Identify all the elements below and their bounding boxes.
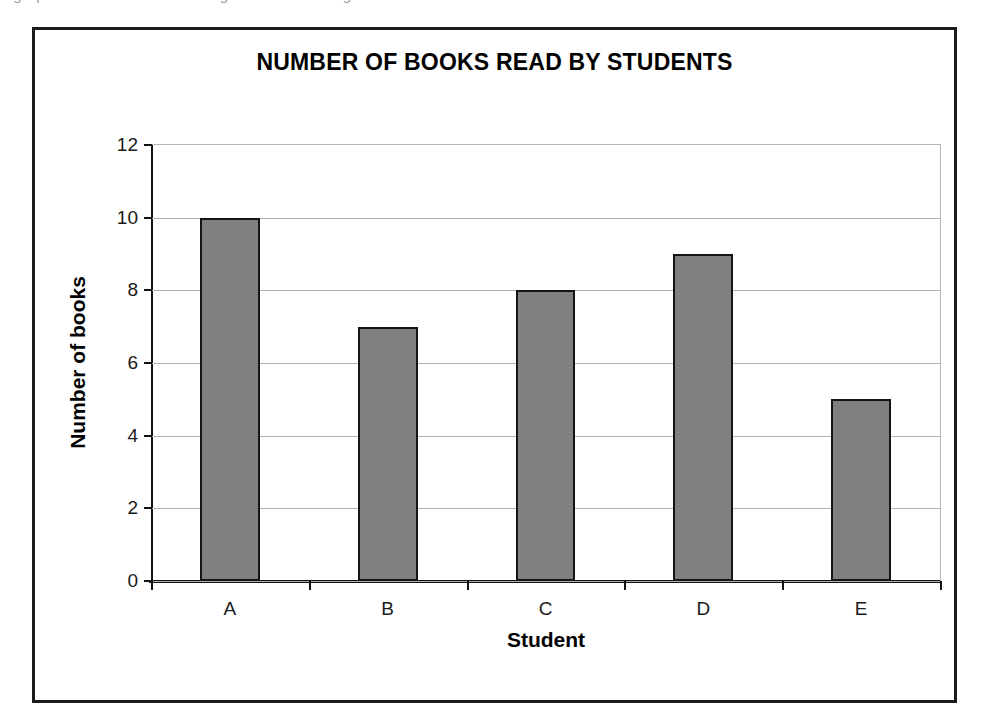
x-axis-tick-label: C (539, 598, 553, 620)
x-axis-tick-label: D (696, 598, 710, 620)
x-axis-tick-label: A (224, 598, 237, 620)
x-axis-tick-mark (467, 581, 469, 590)
x-axis-tick-mark (624, 581, 626, 590)
gridline (151, 581, 940, 582)
bar-e (831, 399, 891, 581)
gridline (151, 218, 940, 219)
bar-b (358, 327, 418, 581)
plot-area: 024681012 ABCDE (151, 144, 941, 581)
bar-c (516, 290, 576, 581)
y-axis-tick-label: 0 (127, 570, 138, 592)
y-axis-tick-mark (144, 217, 152, 219)
y-axis-tick-label: 4 (127, 425, 138, 447)
y-axis-tick-mark (144, 507, 152, 509)
x-axis-tick-label: E (855, 598, 868, 620)
y-axis-tick-mark (144, 435, 152, 437)
y-axis-title: Number of books (63, 144, 93, 581)
y-axis-tick-label: 2 (127, 497, 138, 519)
x-axis-tick-label: B (381, 598, 394, 620)
chart-frame: NUMBER OF BOOKS READ BY STUDENTS Number … (32, 27, 957, 703)
y-axis-tick-label: 6 (127, 352, 138, 374)
x-axis-tick-mark (309, 581, 311, 590)
bar-a (200, 218, 260, 581)
x-axis-tick-mark (940, 581, 942, 590)
y-axis-tick-mark (144, 289, 152, 291)
scanned-page-remnant-text: a graph on the axes below using the info… (0, 0, 984, 4)
y-axis-tick-label: 12 (117, 134, 138, 156)
y-axis-tick-label: 8 (127, 279, 138, 301)
y-axis-tick-label: 10 (117, 207, 138, 229)
x-axis-tick-mark (782, 581, 784, 590)
x-axis-title: Student (151, 628, 941, 652)
chart-title: NUMBER OF BOOKS READ BY STUDENTS (35, 49, 954, 76)
y-axis-tick-mark (144, 144, 152, 146)
x-axis-tick-mark (151, 581, 153, 590)
y-axis-tick-mark (144, 362, 152, 364)
bar-d (673, 254, 733, 581)
